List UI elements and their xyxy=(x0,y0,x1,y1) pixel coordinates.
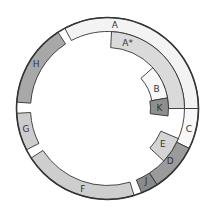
segment-label-h: H xyxy=(33,59,40,69)
segment-label-c: C xyxy=(186,124,192,134)
segment-h xyxy=(17,32,66,103)
segment-label-f: F xyxy=(80,184,85,194)
segment-label-b: B xyxy=(154,84,160,94)
segment-label-a-star: A* xyxy=(122,38,133,48)
segment-label-j: J xyxy=(144,176,148,186)
segment-label-a: A xyxy=(112,20,119,30)
segment-label-d: D xyxy=(167,156,174,166)
segments-group xyxy=(17,18,199,200)
ring-diagram: AA*BKCDEJFGH xyxy=(0,0,213,211)
segment-label-e: E xyxy=(160,139,166,149)
segment-label-g: G xyxy=(23,124,30,134)
